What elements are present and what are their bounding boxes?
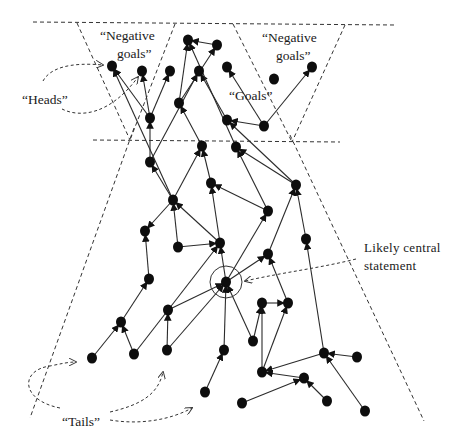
statement-node: [283, 298, 293, 309]
tails-pointer-middle: [110, 372, 163, 412]
statement-node: [162, 345, 172, 356]
statement-node: [194, 66, 204, 77]
edge-arrow: [262, 353, 324, 372]
statement-node: [173, 242, 183, 253]
tails-pointer-right: [110, 408, 192, 422]
statement-node: [269, 74, 279, 85]
statement-node: [206, 178, 216, 189]
edge-arrow: [220, 243, 226, 282]
outer-left-line: [30, 128, 134, 418]
statement-node: [237, 398, 247, 409]
statement-node: [257, 298, 267, 309]
edge-arrow: [253, 303, 262, 341]
heads-pointer-lower: [62, 77, 138, 113]
edge-arrow: [211, 183, 220, 243]
statement-node: [322, 396, 332, 407]
statement-node: [222, 115, 232, 126]
statement-node: [145, 113, 155, 124]
statement-node: [301, 234, 311, 245]
statement-node: [140, 226, 150, 237]
negative-goals-right-label-line1: “Negative: [262, 30, 317, 45]
statement-node: [200, 387, 210, 398]
edge-arrow: [262, 303, 288, 372]
statement-node: [259, 121, 269, 132]
statement-node: [165, 66, 175, 77]
edge-arrow: [242, 378, 304, 403]
statement-node: [107, 61, 117, 72]
statement-node: [219, 345, 229, 356]
edge-arrow: [173, 200, 178, 247]
edge-arrow: [121, 279, 149, 322]
statement-node: [222, 62, 232, 73]
edge-arrow: [167, 310, 168, 350]
edge-arrow: [211, 183, 268, 211]
edge-arrow: [226, 211, 268, 282]
statement-node: [174, 98, 184, 109]
statement-node: [144, 274, 154, 285]
edge-arrow: [306, 239, 324, 353]
statement-node: [319, 348, 329, 359]
edge-arrow: [167, 282, 226, 350]
central-pointer: [245, 259, 356, 281]
statement-node: [197, 141, 207, 152]
edge-arrow: [296, 185, 306, 239]
labels: “Negative goals” “Negative goals” “Goals…: [22, 28, 441, 429]
goals-label: “Goals”: [229, 88, 272, 103]
statement-node: [231, 142, 241, 153]
central-statement-label-line2: statement: [364, 258, 417, 273]
statement-node: [116, 317, 126, 328]
edge-arrow: [145, 200, 173, 231]
top-boundary-line: [33, 22, 395, 25]
central-statement-node: [221, 277, 231, 288]
edge-arrow: [142, 71, 150, 118]
edge-arrow: [202, 146, 211, 183]
negative-goals-right-label-line2: goals”: [276, 48, 311, 63]
statement-node: [263, 206, 273, 217]
edge-arrow: [178, 243, 220, 247]
heads-label: “Heads”: [22, 92, 68, 107]
edge-arrow: [179, 103, 202, 146]
negative-goals-left-label-line2: goals”: [117, 46, 152, 61]
statement-node: [163, 305, 173, 316]
statement-node: [215, 238, 225, 249]
statement-node: [137, 66, 147, 77]
edge-arrow: [268, 185, 296, 254]
negative-goals-left-label-line1: “Negative: [100, 28, 155, 43]
edge-arrow: [150, 162, 173, 200]
statement-node: [129, 349, 139, 360]
edge-arrow: [173, 146, 202, 200]
edge-arrow: [268, 254, 288, 303]
edge-arrow: [173, 200, 220, 243]
tails-label: “Tails”: [62, 414, 100, 429]
statement-node: [212, 40, 222, 51]
statement-node: [263, 249, 273, 260]
statement-node: [257, 367, 267, 378]
edge-arrow: [224, 282, 226, 350]
statement-node: [307, 62, 317, 73]
central-statement-label-line1: Likely central: [364, 240, 441, 255]
goals-divider-line: [93, 140, 340, 142]
edge-arrow: [205, 350, 224, 392]
statement-node: [360, 406, 370, 417]
heads-pointer-upper: [43, 64, 103, 81]
statement-node: [291, 180, 301, 191]
statement-node: [248, 336, 258, 347]
edge-arrow: [92, 322, 121, 358]
statement-node: [352, 352, 362, 363]
edge-arrow: [262, 372, 304, 378]
statement-node: [299, 373, 309, 384]
statement-node: [168, 195, 178, 206]
statement-node: [183, 35, 193, 46]
edge-arrow: [150, 71, 170, 118]
statement-node: [145, 157, 155, 168]
edge-arrow: [145, 231, 149, 279]
edge-arrow: [150, 71, 199, 162]
statement-node: [87, 353, 97, 364]
outer-right-line: [290, 135, 424, 421]
argument-network-diagram: “Negative goals” “Negative goals” “Goals…: [0, 0, 457, 446]
